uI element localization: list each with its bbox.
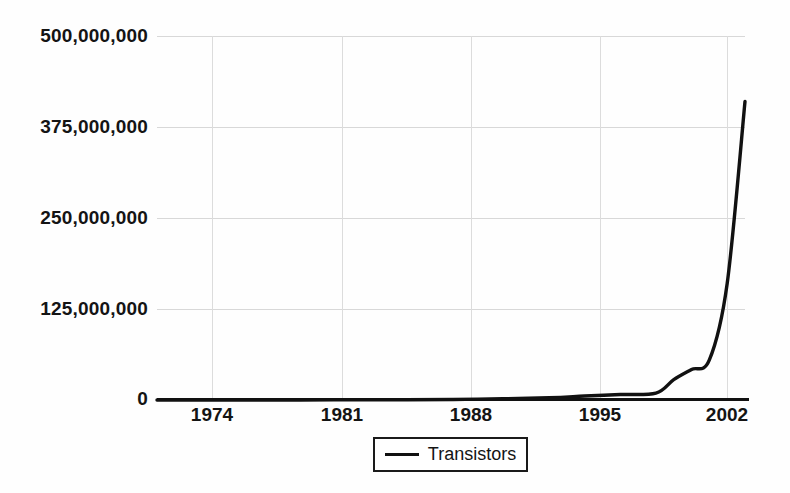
legend-line-swatch-icon [385,453,419,456]
x-tick-label-2002: 2002 [706,404,748,426]
x-tick-label-1981: 1981 [321,404,363,426]
y-tick-label-500m: 500,000,000 [40,25,148,47]
y-tick-label-125m: 125,000,000 [40,298,148,320]
data-series-transistors [157,36,745,400]
plot-area [157,36,745,400]
legend-label-transistors: Transistors [428,444,516,465]
series-line-transistors [157,102,745,400]
x-tick-label-1988: 1988 [450,404,492,426]
chart-screenshot: 500,000,000 375,000,000 250,000,000 125,… [0,0,790,493]
chart-legend: Transistors [373,437,528,472]
x-tick-label-1974: 1974 [191,404,233,426]
y-tick-label-250m: 250,000,000 [40,207,148,229]
x-axis-line [157,398,749,401]
x-axis-labels: 1974 1981 1988 1995 2002 [0,404,790,434]
x-tick-label-1995: 1995 [579,404,621,426]
y-tick-label-375m: 375,000,000 [40,116,148,138]
